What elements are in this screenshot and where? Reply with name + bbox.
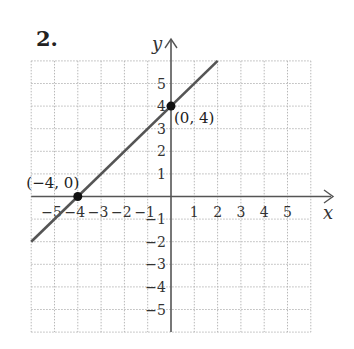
y-tick-label: −3 [145,256,166,272]
x-tick-label: 4 [260,204,269,220]
point-label: (−4, 0) [26,174,79,192]
point-label: (0, 4) [174,109,214,127]
y-tick-label: −1 [145,211,166,227]
x-tick-label: 3 [236,204,245,220]
y-tick-label: 5 [157,76,166,92]
y-tick-label: −4 [145,279,166,295]
y-tick-label: 1 [157,166,166,182]
x-tick-label: −3 [88,204,109,220]
x-tick-label: −2 [111,204,132,220]
coordinate-plane: xy −5−4−3−2−11234554321−1−2−3−4−5 (−4, 0… [0,0,354,349]
y-tick-label: −2 [145,234,166,250]
y-tick-label: 2 [157,143,166,159]
y-tick-label: −5 [145,302,166,318]
x-axis-label: x [323,202,333,223]
x-tick-label: −5 [41,204,62,220]
y-tick-label: 3 [157,121,166,137]
x-tick-label: 5 [283,204,292,220]
x-tick-label: 1 [190,204,199,220]
point-marker [73,192,82,201]
y-axis-label: y [151,33,163,54]
x-tick-label: 2 [213,204,222,220]
